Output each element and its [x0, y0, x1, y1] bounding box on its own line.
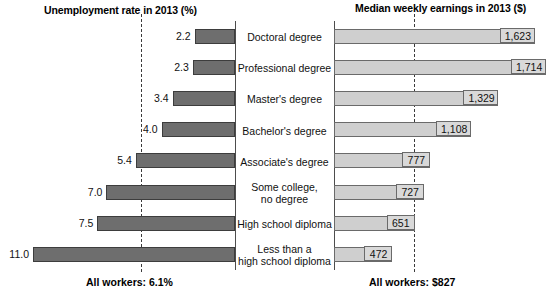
category-label: High school diploma — [236, 210, 333, 239]
left-chart-title: Unemployment rate in 2013 (%) — [44, 4, 197, 16]
unemployment-bar — [195, 29, 235, 44]
earnings-value-label: 1,329 — [463, 90, 498, 105]
unemployment-value-label: 2.3 — [174, 59, 189, 76]
earnings-value-label: 1,108 — [436, 121, 471, 136]
earnings-value-label: 1,714 — [511, 59, 546, 74]
earnings-value-label: 727 — [396, 184, 424, 199]
category-label: Professional degree — [236, 54, 333, 83]
unemployment-bar — [173, 91, 235, 106]
unemployment-value-label: 3.4 — [154, 90, 169, 107]
unemployment-bar — [162, 122, 235, 137]
chart-row: 4.0Bachelor's degree1,108 — [0, 114, 551, 145]
earnings-value-label: 777 — [402, 152, 430, 167]
unemployment-value-label: 5.4 — [117, 152, 132, 169]
unemployment-bar — [193, 60, 235, 75]
category-label: Bachelor's degree — [236, 116, 333, 145]
chart-row: 2.2Doctoral degree1,623 — [0, 21, 551, 52]
category-label: Doctoral degree — [236, 23, 333, 52]
unemployment-bar — [136, 153, 235, 168]
left-mean-label: All workers: 6.1% — [86, 276, 173, 288]
category-label: Less than ahigh school diploma — [236, 241, 333, 270]
right-chart-title: Median weekly earnings in 2013 ($) — [355, 2, 526, 14]
unemployment-value-label: 7.0 — [88, 184, 103, 201]
earnings-value-label: 1,623 — [500, 28, 535, 43]
unemployment-bar — [97, 216, 235, 231]
earnings-value-label: 651 — [387, 215, 415, 230]
category-label: Some college,no degree — [236, 179, 333, 208]
unemployment-value-label: 4.0 — [143, 121, 158, 138]
category-label: Associate's degree — [236, 147, 333, 176]
chart-row: 7.5High school diploma651 — [0, 208, 551, 239]
unemployment-bar — [106, 185, 235, 200]
chart-row: 5.4Associate's degree777 — [0, 145, 551, 176]
chart-row: 7.0Some college,no degree727 — [0, 177, 551, 208]
chart-container: Unemployment rate in 2013 (%) Median wee… — [0, 0, 551, 296]
chart-row: 11.0Less than ahigh school diploma472 — [0, 239, 551, 270]
chart-row: 2.3Professional degree1,714 — [0, 52, 551, 83]
unemployment-value-label: 7.5 — [79, 215, 94, 232]
chart-row: 3.4Master's degree1,329 — [0, 83, 551, 114]
unemployment-value-label: 11.0 — [9, 246, 29, 263]
earnings-value-label: 472 — [364, 246, 392, 261]
category-label: Master's degree — [236, 85, 333, 114]
unemployment-bar — [33, 247, 235, 262]
right-mean-label: All workers: $827 — [369, 276, 455, 288]
unemployment-value-label: 2.2 — [176, 28, 191, 45]
